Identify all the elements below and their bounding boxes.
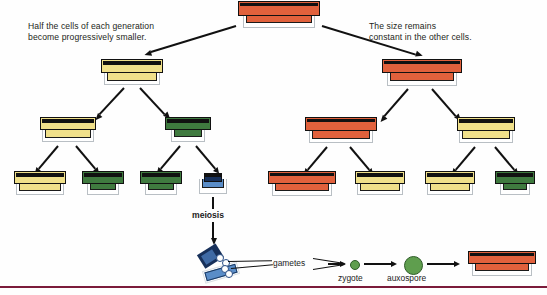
epitheca-notch: [167, 119, 210, 123]
epitheca-notch: [205, 174, 221, 177]
cell-g3-c: [140, 171, 182, 195]
cell-g1-right: [382, 59, 462, 86]
epitheca-notch: [142, 173, 181, 177]
bottom-rule: [0, 286, 547, 288]
meiosis-stem-upper: [212, 197, 214, 209]
cell-g3-g: [425, 171, 475, 195]
diatom-lifecycle-diagram: Half the cells of each generation become…: [0, 0, 547, 295]
cell-restored-large: [468, 251, 536, 276]
cell-g2-c: [305, 117, 377, 143]
epitheca-notch: [16, 173, 65, 177]
meiosis-label: meiosis: [192, 210, 224, 220]
caption-left: Half the cells of each generation become…: [28, 21, 228, 44]
cell-g3-b: [82, 171, 124, 195]
epitheca-notch: [270, 173, 335, 176]
epitheca-notch: [384, 61, 461, 64]
epitheca-notch: [357, 173, 404, 177]
epitheca-notch: [497, 173, 534, 177]
epitheca-notch: [307, 119, 376, 122]
gametes-label: gametes: [273, 258, 305, 268]
caption-right: The size remains constant in the other c…: [369, 21, 529, 44]
cell-g3-e: [268, 171, 336, 196]
zygote-label: zygote: [338, 273, 363, 283]
epitheca-notch: [42, 119, 95, 123]
cell-g3-a: [14, 171, 66, 195]
cell-g2-d: [457, 117, 515, 143]
cell-g2-a: [40, 117, 96, 142]
cell-g0-parent: [238, 1, 320, 28]
epitheca-notch: [84, 173, 123, 177]
gametes-line-upper: [228, 260, 272, 262]
cell-g3-h: [495, 171, 535, 195]
cell-g1-left: [101, 59, 163, 85]
cell-g3-f: [355, 171, 405, 195]
epitheca-notch: [240, 3, 319, 7]
epitheca-notch: [427, 173, 474, 177]
cell-g3-d-meiosis: [199, 173, 227, 194]
cell-g2-b: [165, 117, 211, 142]
auxospore-label: auxospore: [387, 273, 426, 283]
epitheca-notch: [103, 61, 162, 65]
epitheca-notch: [459, 119, 514, 123]
zygote-dot: [350, 260, 360, 270]
epitheca-notch: [470, 253, 535, 256]
gamete-circle-4: [225, 270, 233, 278]
